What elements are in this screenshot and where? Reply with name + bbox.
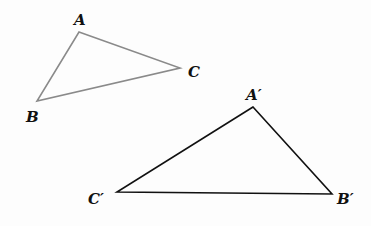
diagram-canvas: A C B A′ C′ B′	[0, 0, 371, 226]
label-a-prime: A′	[244, 86, 262, 104]
triangles-figure: A C B A′ C′ B′	[0, 0, 371, 226]
label-c-prime: C′	[88, 190, 104, 208]
label-b-prime: B′	[336, 190, 354, 208]
triangle-abc	[37, 32, 180, 101]
label-b: B	[25, 108, 39, 126]
label-c: C	[188, 63, 200, 81]
label-a: A	[72, 11, 86, 29]
triangle-a-prime-b-prime-c-prime	[117, 107, 332, 194]
